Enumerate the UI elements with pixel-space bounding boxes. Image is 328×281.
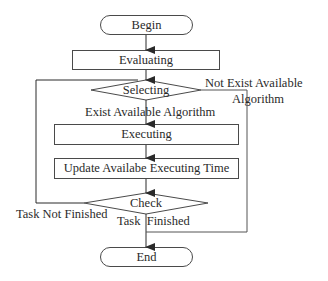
executing-label: Executing (54, 127, 239, 141)
evaluating-label: Evaluating (72, 53, 220, 67)
task-finished-label: Task Finished (117, 214, 190, 228)
selecting-label: Selecting (91, 83, 201, 97)
begin-label: Begin (100, 18, 193, 32)
not-exist-label-line2: Algorithm (232, 92, 284, 106)
end-label: End (100, 250, 193, 264)
task-not-finished-label: Task Not Finished (16, 207, 108, 221)
exist-available-label: Exist Available Algorithm (85, 105, 215, 119)
not-exist-label-line1: Not Exist Available (205, 76, 303, 90)
update-label: Update Availabe Executing Time (54, 161, 239, 175)
